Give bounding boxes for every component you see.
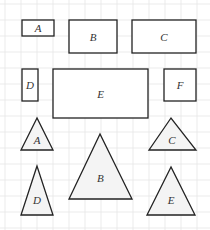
triangle-label: E — [167, 194, 175, 206]
rectangles-group: ABCDEF — [22, 20, 196, 118]
triangles-group: ABCDE — [21, 118, 196, 215]
triangle-shape — [147, 167, 195, 215]
rectangle-label: E — [96, 88, 104, 100]
rectangle-a: A — [22, 20, 54, 36]
rectangle-b: B — [69, 20, 117, 53]
rectangle-d: D — [22, 69, 38, 101]
triangle-label: D — [32, 194, 41, 206]
triangle-e: E — [147, 167, 195, 215]
rectangle-e: E — [53, 69, 148, 118]
rectangle-label: A — [34, 22, 42, 34]
rectangle-label: B — [90, 31, 97, 43]
rectangle-label: F — [176, 79, 184, 91]
triangle-shape — [21, 166, 53, 215]
rectangle-c: C — [132, 20, 196, 53]
shapes-diagram: ABCDEF ABCDE — [0, 0, 210, 230]
triangle-b: B — [69, 134, 132, 199]
triangle-label: C — [168, 134, 176, 146]
triangle-c: C — [149, 118, 196, 150]
rectangle-label: D — [25, 79, 34, 91]
triangle-label: A — [33, 134, 41, 146]
rectangle-f: F — [164, 69, 196, 101]
shapes-canvas: ABCDEF ABCDE — [0, 0, 210, 230]
rectangle-label: C — [160, 31, 168, 43]
triangle-label: B — [97, 172, 104, 184]
triangle-shape — [69, 134, 132, 199]
triangle-d: D — [21, 166, 53, 215]
triangle-a: A — [21, 118, 53, 150]
